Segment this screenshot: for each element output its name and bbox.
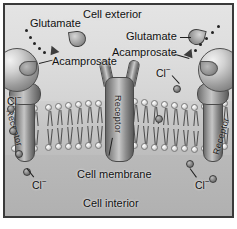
diagram-figure: Receptor Receptor Receptor [0,0,237,229]
chloride-ion [173,85,181,93]
acamprosate-right-label: Acamprosate [112,46,177,58]
motion-dot [194,49,197,52]
motion-dot [217,25,220,28]
motion-dot [38,47,41,50]
diagram-frame: Receptor Receptor Receptor [3,3,234,218]
motion-dot [211,31,214,34]
cell-interior-label: Cell interior [83,197,139,209]
motion-dot [43,51,46,54]
leader-glutamate-right [180,37,191,38]
cell-membrane-label: Cell membrane [77,168,152,180]
chloride-ion [209,175,217,183]
cell-exterior-label: Cell exterior [83,8,142,20]
motion-dot [25,29,28,32]
motion-dot [205,37,208,40]
motion-dot [33,42,36,45]
chloride-left-edge-label: Cl− [7,93,22,107]
chloride-ion [15,150,23,158]
chloride-exterior-right-label: Cl− [156,65,171,79]
motion-dot [199,43,202,46]
motion-dot [29,36,32,39]
binding-site-right [200,61,218,76]
glutamate-right-label: Glutamate [126,30,177,42]
chloride-ion [9,127,17,135]
chloride-interior-right-label: Cl− [195,177,210,191]
chloride-ion [155,115,163,123]
binding-site-left [19,61,37,76]
chloride-interior-left-label: Cl− [32,177,47,191]
acamprosate-left-label: Acamprosate [52,55,117,67]
receptor-center-label: Receptor [113,95,123,133]
glutamate-left-label: Glutamate [30,17,81,29]
